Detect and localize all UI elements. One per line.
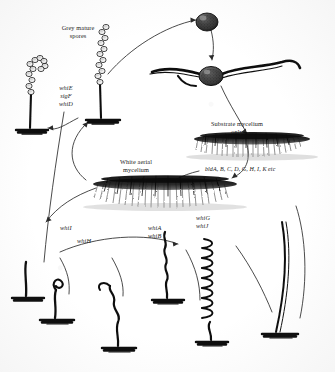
label-grey-mature-spores-line2: spores xyxy=(47,32,109,40)
substrate-mycelium-lawn xyxy=(186,132,318,160)
hypha-stage-1 xyxy=(12,262,44,301)
arrow-aerial-to-hypha1 xyxy=(46,188,96,222)
aerial-mycelium-lawn xyxy=(83,175,247,211)
arrowhead xyxy=(173,241,178,246)
arrow-hypha1-to-hypha2 xyxy=(60,258,69,294)
arrow-aerial-to-sporechain xyxy=(72,122,88,180)
label-substrate-mycelium: Substrate mycelium only xyxy=(198,120,276,136)
arrow-hypha2-to-hypha3 xyxy=(112,258,123,296)
label-gene-sigF: sigF xyxy=(49,92,83,100)
diagram-canvas: Grey mature spores whiE sigF whiD Substr… xyxy=(0,0,335,372)
label-white-aerial-line1: White aerial xyxy=(104,158,168,166)
label-gene-whiD: whiD xyxy=(49,100,83,108)
arrow-hypha5-to-spores xyxy=(296,206,305,318)
label-white-aerial-line2: mycelium xyxy=(104,166,168,174)
label-gene-whiI: whiI xyxy=(60,224,72,232)
label-grey-mature-spores-line1: Grey mature xyxy=(47,24,109,32)
arrow-hypha3-to-hypha4 xyxy=(186,250,200,300)
arrow-spores-to-spore xyxy=(108,20,196,74)
germ-tube-structure xyxy=(150,61,300,86)
arrowhead xyxy=(209,55,215,60)
label-gene-whiB: whiB xyxy=(148,232,161,240)
hypha-stage-5 xyxy=(196,239,228,346)
label-gene-bld-series: bldA, B, C, D, G, H, I, K etc xyxy=(205,166,275,174)
life-cycle-illustration xyxy=(0,0,335,372)
label-gene-whiA: whiA xyxy=(148,224,161,232)
label-gene-whiE: whiE xyxy=(49,84,83,92)
label-grey-mature-spores: Grey mature spores xyxy=(47,24,109,40)
hypha-stage-6-aerial xyxy=(262,222,298,338)
label-gene-whiJ: whiJ xyxy=(196,222,208,230)
label-gene-group-sporulation: whiE sigF whiD xyxy=(49,84,83,108)
hypha-stage-3 xyxy=(99,283,136,352)
label-substrate-mycelium-line1: Substrate mycelium xyxy=(198,120,276,128)
label-white-aerial-mycelium: White aerial mycelium xyxy=(104,158,168,174)
germinating-spore xyxy=(196,13,218,31)
arrowhead xyxy=(190,18,196,23)
label-gene-whiG: whiG xyxy=(196,214,210,222)
arrow-hypha4-to-hypha5 xyxy=(236,246,272,312)
label-substrate-mycelium-line2: only xyxy=(198,128,276,136)
arrow-whiE-block-down xyxy=(44,112,64,262)
label-gene-whiH: whiH xyxy=(77,237,91,245)
hypha-stage-4 xyxy=(152,232,184,304)
spore-chain-left xyxy=(16,55,48,134)
